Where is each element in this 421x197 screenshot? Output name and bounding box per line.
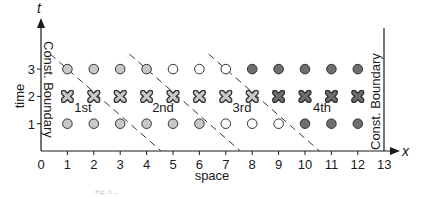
left-boundary-label: Const. Boundary <box>41 41 56 138</box>
data-markers <box>61 64 363 128</box>
t-tick-label: 1 <box>28 117 35 132</box>
x-tick-label: 4 <box>143 157 150 172</box>
circle-marker <box>221 119 231 129</box>
circle-marker <box>353 119 363 129</box>
cross-marker <box>193 90 205 102</box>
circle-marker <box>274 119 284 129</box>
figure-caption: Fig. 3 ... <box>95 188 119 196</box>
circle-marker <box>247 64 257 74</box>
stage-label-3rd: 3rd <box>233 100 252 115</box>
space-time-diagram: x t space time 012345678910111213 123 Co… <box>0 0 421 197</box>
x-tick-label: 11 <box>325 157 339 172</box>
t-tick-label: 3 <box>28 62 35 77</box>
circle-marker <box>274 64 284 74</box>
t-axis-variable: t <box>37 0 42 16</box>
cross-marker <box>273 90 285 102</box>
circle-marker <box>89 64 99 74</box>
stage-label-1st: 1st <box>74 100 92 115</box>
x-tick-label: 12 <box>351 157 365 172</box>
circle-marker <box>142 119 152 129</box>
x-tick-label: 7 <box>222 157 229 172</box>
x-tick-label: 3 <box>117 157 124 172</box>
x-tick-label: 2 <box>90 157 97 172</box>
circle-marker <box>353 64 363 74</box>
x-axis-variable: x <box>401 143 410 159</box>
t-tick-label: 2 <box>28 89 35 104</box>
x-tick-label: 9 <box>275 157 282 172</box>
cross-marker <box>299 90 311 102</box>
circle-marker <box>300 64 310 74</box>
circle-marker <box>195 119 205 129</box>
x-tick-label: 10 <box>298 157 312 172</box>
x-tick-label: 0 <box>37 157 44 172</box>
circle-marker <box>115 119 125 129</box>
x-tick-label: 6 <box>196 157 203 172</box>
circle-marker <box>221 64 231 74</box>
cross-marker <box>220 90 232 102</box>
circle-marker <box>63 64 73 74</box>
cross-marker <box>61 90 73 102</box>
circle-marker <box>300 119 310 129</box>
circle-marker <box>327 64 337 74</box>
circle-marker <box>168 64 178 74</box>
circle-marker <box>115 64 125 74</box>
x-tick-label: 13 <box>377 157 391 172</box>
stage-label-2nd: 2nd <box>152 100 174 115</box>
circle-marker <box>168 119 178 129</box>
x-tick-label: 1 <box>64 157 71 172</box>
x-tick-label: 5 <box>169 157 176 172</box>
circle-marker <box>142 64 152 74</box>
cross-marker <box>352 90 364 102</box>
circle-marker <box>63 119 73 129</box>
stage-label-4th: 4th <box>313 100 331 115</box>
t-ticks: 123 <box>28 62 41 132</box>
x-tick-label: 8 <box>249 157 256 172</box>
t-axis-title: time <box>12 84 27 109</box>
cross-marker <box>114 90 126 102</box>
cross-marker <box>141 90 153 102</box>
circle-marker <box>247 119 257 129</box>
circle-marker <box>89 119 99 129</box>
circle-marker <box>195 64 205 74</box>
circle-marker <box>327 119 337 129</box>
right-boundary-label: Const. Boundary <box>368 53 383 150</box>
